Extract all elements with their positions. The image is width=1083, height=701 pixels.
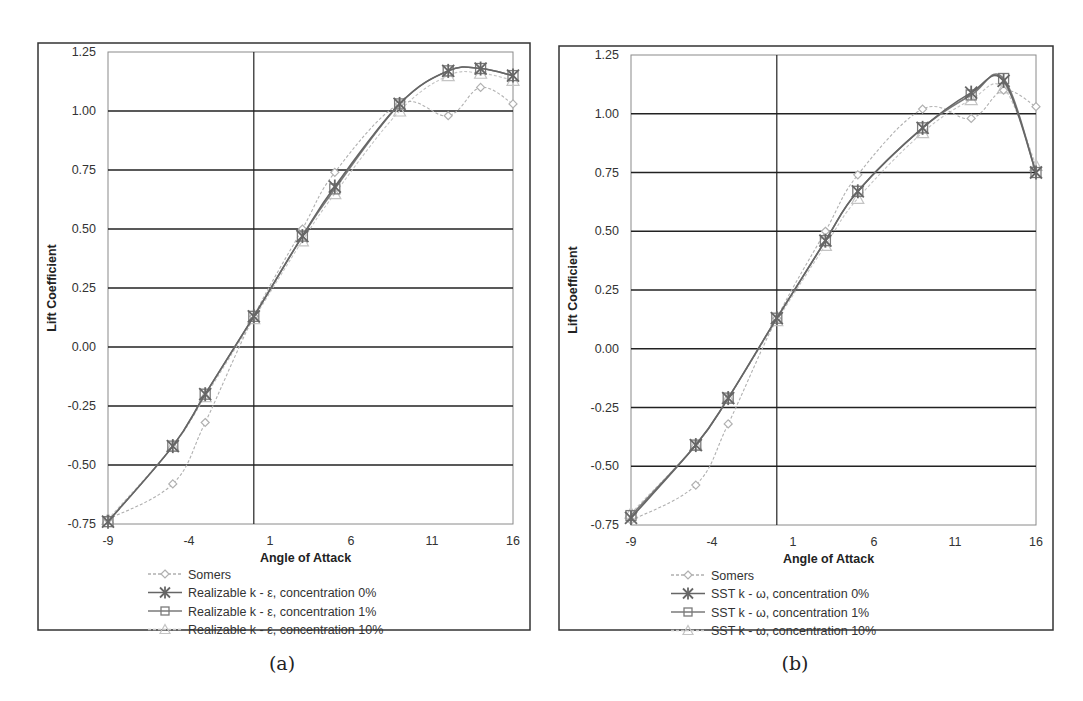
y-axis-ticks: 1.251.000.750.500.250.00-0.25-0.50-0.75 xyxy=(68,45,97,531)
x-tick-label: 1 xyxy=(790,535,797,549)
legend-label: Realizable k - ε, concentration 0% xyxy=(188,586,376,600)
x-tick-label: 6 xyxy=(348,534,355,548)
y-tick-label: 1.00 xyxy=(595,107,619,121)
y-tick-label: 0.75 xyxy=(595,166,619,180)
y-tick-label: 0.50 xyxy=(72,222,96,236)
x-tick-label: 11 xyxy=(949,535,962,549)
lift-coefficient-chart-a: 1.251.000.750.500.250.00-0.25-0.50-0.75-… xyxy=(0,0,541,701)
chart-panel-b: 1.251.000.750.500.250.00-0.25-0.50-0.75-… xyxy=(543,0,1083,701)
legend-label: Somers xyxy=(188,568,231,582)
y-tick-label: -0.25 xyxy=(68,399,97,413)
x-tick-label: -9 xyxy=(102,534,113,548)
y-tick-label: 0.00 xyxy=(595,342,619,356)
y-tick-label: 1.00 xyxy=(72,104,96,118)
y-tick-label: 1.25 xyxy=(72,45,96,59)
lift-coefficient-chart-b: 1.251.000.750.500.250.00-0.25-0.50-0.75-… xyxy=(543,0,1083,701)
y-tick-label: -0.75 xyxy=(68,517,97,531)
y-tick-label: 0.50 xyxy=(595,224,619,238)
x-tick-label: 16 xyxy=(506,534,520,548)
y-axis-title: Lift Coefficient xyxy=(45,243,59,331)
legend-label: Somers xyxy=(711,569,754,583)
x-axis-title: Angle of Attack xyxy=(783,552,874,566)
x-tick-label: 16 xyxy=(1029,535,1043,549)
y-tick-label: 1.25 xyxy=(595,48,619,62)
legend-label: SST k - ω, concentration 0% xyxy=(711,587,869,601)
y-tick-label: 0.25 xyxy=(595,283,619,297)
legend-label: Realizable k - ε, concentration 1% xyxy=(188,605,376,619)
legend-label: Realizable k - ε, concentration 10% xyxy=(188,623,383,637)
legend-label: SST k - ω, concentration 10% xyxy=(711,624,876,638)
x-tick-label: 1 xyxy=(267,534,274,548)
chart-panel-a: 1.251.000.750.500.250.00-0.25-0.50-0.75-… xyxy=(0,0,541,701)
x-tick-label: 11 xyxy=(426,534,439,548)
x-tick-label: -4 xyxy=(706,535,717,549)
y-axis-ticks: 1.251.000.750.500.250.00-0.25-0.50-0.75 xyxy=(591,48,620,532)
x-tick-label: -9 xyxy=(625,535,636,549)
x-tick-label: 6 xyxy=(871,535,878,549)
y-tick-label: -0.50 xyxy=(591,459,620,473)
x-tick-label: -4 xyxy=(183,534,194,548)
y-tick-label: 0.75 xyxy=(72,163,96,177)
y-tick-label: -0.75 xyxy=(591,518,620,532)
y-tick-label: 0.00 xyxy=(72,340,96,354)
y-axis-title: Lift Coefficient xyxy=(566,245,580,333)
legend-label: SST k - ω, concentration 1% xyxy=(711,606,869,620)
y-tick-label: -0.50 xyxy=(68,458,97,472)
caption-b: (b) xyxy=(765,652,825,674)
caption-a: (a) xyxy=(252,652,312,674)
y-tick-label: -0.25 xyxy=(591,401,620,415)
y-tick-label: 0.25 xyxy=(72,281,96,295)
x-axis-title: Angle of Attack xyxy=(260,551,351,565)
